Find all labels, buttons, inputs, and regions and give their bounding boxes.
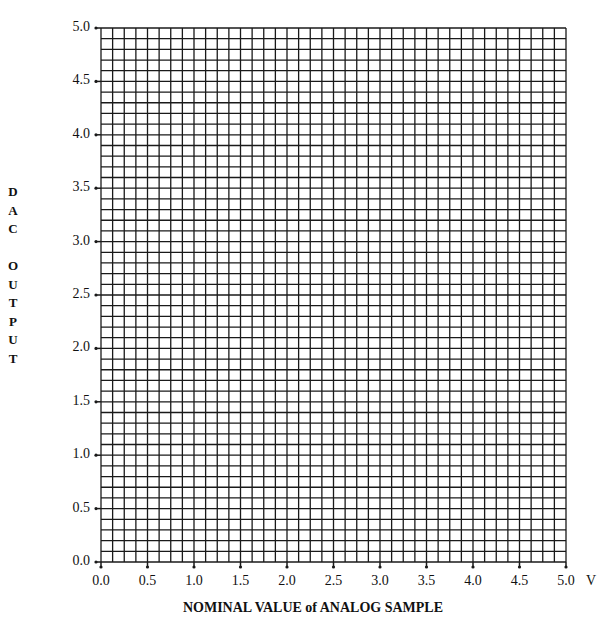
y-axis-title-letter: A [3, 204, 23, 218]
x-tick-label: 3.5 [407, 573, 447, 589]
x-tick-label: 4.5 [500, 573, 540, 589]
x-axis-title: NOMINAL VALUE of ANALOG SAMPLE [0, 600, 616, 616]
x-tick-label: 1.5 [221, 573, 261, 589]
x-tick-label: 2.0 [267, 573, 307, 589]
x-tick-label: 2.5 [314, 573, 354, 589]
y-tick-label: 2.0 [40, 340, 90, 354]
x-tick-label: 4.0 [453, 573, 493, 589]
y-axis-title-letter: D [3, 185, 23, 199]
y-axis-title-letter: O [3, 259, 23, 273]
y-axis-title-letter: T [3, 296, 23, 310]
y-axis-title-letter: U [3, 278, 23, 292]
y-tick-label: 1.5 [40, 394, 90, 408]
y-tick-label: 2.5 [40, 287, 90, 301]
graph-paper-grid [0, 0, 616, 631]
x-tick-label: 5.0 [546, 573, 586, 589]
y-axis-title-letter: T [3, 352, 23, 366]
x-axis-unit: V [586, 573, 596, 589]
y-tick-label: 3.5 [40, 180, 90, 194]
y-tick-label: 5.0 [40, 20, 90, 34]
y-tick-label: 0.5 [40, 501, 90, 515]
y-tick-label: 4.0 [40, 127, 90, 141]
y-tick-label: 4.5 [40, 73, 90, 87]
y-tick-label: 0.0 [40, 554, 90, 568]
y-axis-title-letter: C [3, 222, 23, 236]
x-tick-label: 0.5 [128, 573, 168, 589]
y-axis-title-letter: P [3, 315, 23, 329]
x-tick-label: 3.0 [360, 573, 400, 589]
x-tick-label: 0.0 [81, 573, 121, 589]
x-tick-label: 1.0 [174, 573, 214, 589]
y-axis-title-letter: U [3, 333, 23, 347]
y-tick-label: 3.0 [40, 234, 90, 248]
y-tick-label: 1.0 [40, 447, 90, 461]
